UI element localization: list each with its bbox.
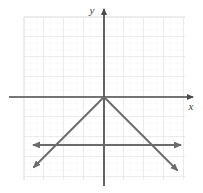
y-axis-label: y (89, 4, 95, 16)
coordinate-plane-svg: y x (0, 0, 203, 193)
graph-figure: y x (0, 0, 203, 193)
x-axis-label: x (188, 100, 194, 112)
